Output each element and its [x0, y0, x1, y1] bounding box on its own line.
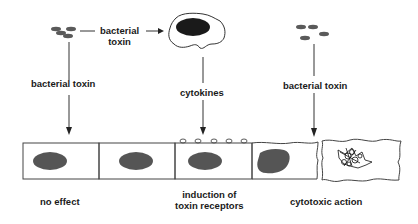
label-cytokines: cytokines [180, 87, 224, 98]
arrow-down-icon [200, 127, 206, 135]
label-induction: induction of toxin receptors [175, 189, 244, 211]
fragmented-nucleus [338, 148, 372, 168]
toxin-receptors [180, 139, 247, 143]
arrow-head-icon [158, 28, 164, 34]
nucleus-2 [119, 152, 153, 170]
bacteria-cluster-right [296, 25, 329, 40]
label-bacterial-toxin-left: bacterial toxin [31, 78, 95, 89]
nucleus-4-deformed [257, 149, 289, 173]
arrow-down-icon [311, 128, 317, 137]
label-toxin-to-macrophage: bacterial toxin [100, 25, 139, 47]
bacteria-cluster-left [51, 27, 76, 38]
label-cytotoxic-action: cytotoxic action [290, 196, 362, 207]
cell-5-lysed [322, 139, 401, 181]
label-bacterial-toxin-right: bacterial toxin [283, 80, 347, 91]
nucleus-1 [33, 152, 67, 170]
arrow-down-icon [66, 127, 72, 135]
label-no-effect: no effect [40, 196, 80, 207]
nucleus-3 [188, 152, 222, 170]
macrophage-nucleus [176, 18, 210, 36]
